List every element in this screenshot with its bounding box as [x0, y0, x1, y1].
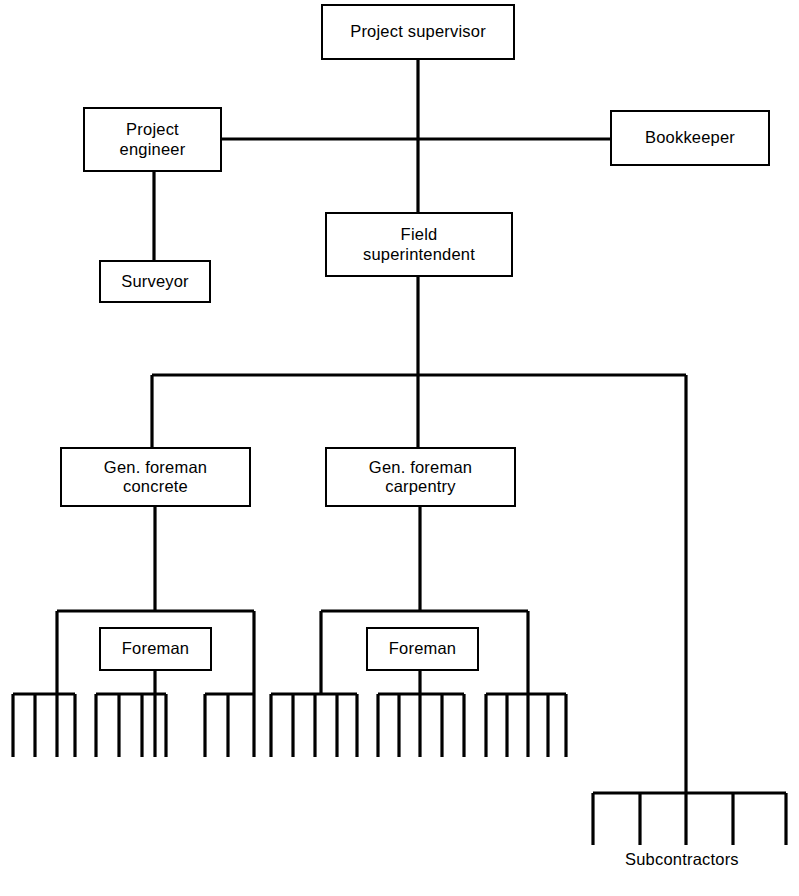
- comb-lines: [13, 694, 786, 845]
- node-project-engineer[interactable]: Project engineer: [83, 107, 222, 172]
- node-gen-foreman-concrete[interactable]: Gen. foreman concrete: [60, 447, 251, 507]
- node-label-gen-foreman-carpentry: Gen. foreman carpentry: [365, 458, 476, 497]
- node-surveyor[interactable]: Surveyor: [99, 260, 211, 303]
- node-label-gen-foreman-concrete: Gen. foreman concrete: [100, 458, 211, 497]
- node-project-supervisor[interactable]: Project supervisor: [321, 4, 515, 60]
- node-label-foreman-carpentry: Foreman: [385, 639, 460, 658]
- node-label-surveyor: Surveyor: [117, 272, 193, 291]
- label-subcontractors: Subcontractors: [625, 850, 739, 869]
- node-label-field-superintendent: Field superintendent: [359, 225, 479, 264]
- node-label-foreman-concrete: Foreman: [118, 639, 193, 658]
- node-field-superintendent[interactable]: Field superintendent: [325, 212, 513, 277]
- node-label-project-engineer: Project engineer: [116, 120, 190, 159]
- node-label-bookkeeper: Bookkeeper: [641, 128, 739, 147]
- node-foreman-concrete[interactable]: Foreman: [99, 627, 212, 671]
- org-chart-canvas: Project supervisorProject engineerBookke…: [0, 0, 799, 896]
- node-gen-foreman-carpentry[interactable]: Gen. foreman carpentry: [325, 447, 516, 507]
- node-label-project-supervisor: Project supervisor: [346, 22, 490, 41]
- node-foreman-carpentry[interactable]: Foreman: [366, 627, 479, 671]
- node-bookkeeper[interactable]: Bookkeeper: [610, 110, 770, 166]
